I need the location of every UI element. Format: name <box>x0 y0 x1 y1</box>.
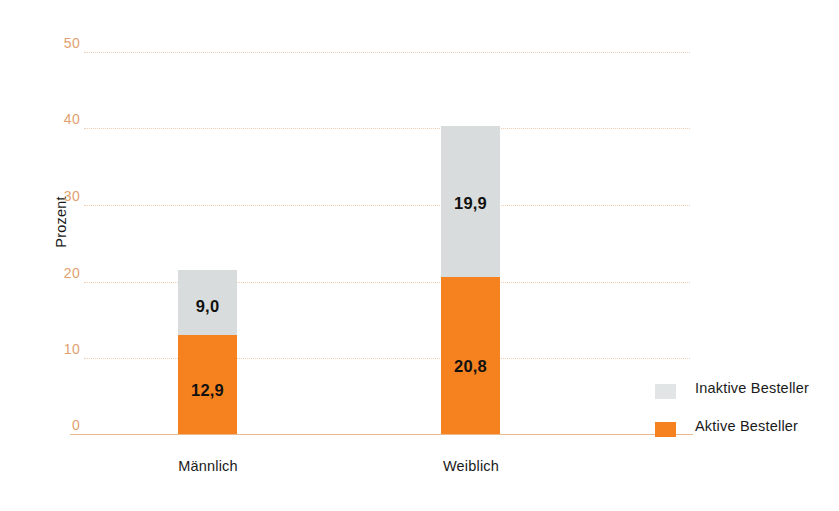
legend-label-aktive: Aktive Besteller <box>695 418 798 434</box>
legend-swatch-aktive-icon <box>655 422 676 437</box>
stacked-bar-chart: Prozent 50 40 30 20 10 0 9,0 12,9 19,9 2… <box>0 0 839 511</box>
bar-value-weiblich-inaktive: 19,9 <box>441 194 500 213</box>
x-axis-category-weiblich: Weiblich <box>411 458 531 474</box>
legend-label-inaktive: Inaktive Besteller <box>695 380 809 396</box>
legend-swatch-inaktive-icon <box>655 384 676 399</box>
bar-value-maennlich-aktive: 12,9 <box>178 381 237 400</box>
bar-value-weiblich-aktive: 20,8 <box>441 357 500 376</box>
x-axis-category-maennlich: Männlich <box>148 458 268 474</box>
bar-value-maennlich-inaktive: 9,0 <box>178 297 237 316</box>
plot-area: 9,0 12,9 19,9 20,8 <box>0 0 839 511</box>
bar-segment-weiblich-aktive[interactable] <box>441 277 500 434</box>
